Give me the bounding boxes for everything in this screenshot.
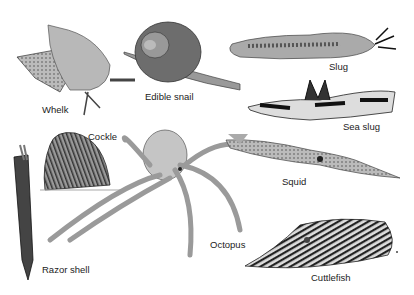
label-slug: Slug [329, 61, 348, 72]
mollusc-illustrations [0, 0, 414, 295]
label-sea-slug: Sea slug [343, 121, 380, 132]
cuttlefish-illustration [245, 219, 398, 268]
edible-snail-illustration [124, 22, 240, 90]
razor-shell-illustration [14, 145, 33, 280]
label-razor-shell: Razor shell [42, 264, 90, 275]
whelk-illustration [17, 25, 135, 115]
label-squid: Squid [282, 176, 306, 187]
label-whelk: Whelk [42, 104, 68, 115]
label-cuttlefish: Cuttlefish [311, 272, 351, 283]
label-edible-snail: Edible snail [145, 91, 194, 102]
mollusc-illustration-plate: Whelk Edible snail Slug Sea slug Cockle … [0, 0, 414, 295]
slug-illustration [230, 28, 396, 59]
label-cockle: Cockle [88, 131, 117, 142]
sea-slug-illustration [248, 80, 395, 120]
squid-illustration [226, 134, 400, 178]
label-octopus: Octopus [210, 239, 245, 250]
